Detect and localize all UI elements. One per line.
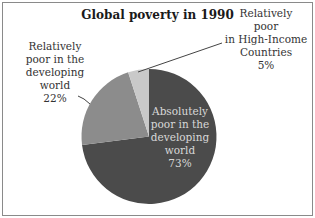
label-line: developing — [145, 131, 215, 144]
label-relatively-poor-high-income: Relatively poor in High-Income Countries… — [218, 7, 314, 72]
leader-line-right — [138, 43, 222, 72]
label-line: poor in the — [12, 53, 98, 66]
label-line: Absolutely — [145, 105, 215, 118]
label-value: 73% — [145, 157, 215, 170]
label-line: poor — [218, 20, 314, 33]
label-line: world — [12, 79, 98, 92]
label-line: poor in the — [145, 118, 215, 131]
label-relatively-poor-developing: Relatively poor in the developing world … — [12, 40, 98, 105]
label-line: Countries — [218, 46, 314, 59]
label-value: 5% — [218, 59, 314, 72]
label-line: Relatively — [12, 40, 98, 53]
label-line: Relatively — [218, 7, 314, 20]
label-line: in High-Income — [218, 33, 314, 46]
label-absolutely-poor: Absolutely poor in the developing world … — [145, 105, 215, 170]
label-line: developing — [12, 66, 98, 79]
label-line: world — [145, 144, 215, 157]
label-value: 22% — [12, 92, 98, 105]
